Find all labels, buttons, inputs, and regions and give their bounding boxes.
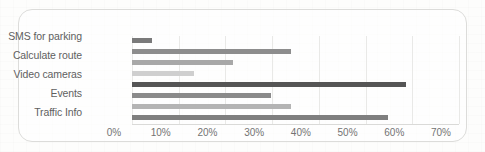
- bar: [132, 93, 271, 98]
- value-axis-line: [132, 124, 459, 125]
- category-label-calculate-route: Calculate route: [13, 49, 82, 61]
- gridline-50: [366, 36, 367, 124]
- bar: [132, 38, 152, 43]
- bar: [132, 49, 291, 54]
- tick-label-20: 20%: [197, 127, 217, 138]
- bar: [132, 82, 406, 87]
- plot-area: [132, 36, 459, 124]
- tick-label-0: 0%: [107, 127, 121, 138]
- tick-label-60: 60%: [384, 127, 404, 138]
- category-label-traffic-info: Traffic Info: [34, 106, 82, 118]
- tick-label-30: 30%: [244, 127, 264, 138]
- category-label-events: Events: [51, 87, 83, 99]
- category-label-video-cameras: Video cameras: [13, 68, 82, 80]
- category-label-sms-for-parking: SMS for parking: [8, 30, 82, 42]
- gridline-40: [319, 36, 320, 124]
- tick-label-50: 50%: [338, 127, 358, 138]
- chart-container: SMS for parkingCalculate routeVideo came…: [18, 9, 467, 142]
- gridline-60: [412, 36, 413, 124]
- gridline-70: [459, 36, 460, 124]
- tick-label-70: 70%: [431, 127, 451, 138]
- bar: [132, 115, 388, 120]
- tick-label-40: 40%: [291, 127, 311, 138]
- bar: [132, 60, 233, 65]
- bar: [132, 104, 291, 109]
- tick-label-10: 10%: [151, 127, 171, 138]
- chart-plot-wrapper: SMS for parkingCalculate routeVideo came…: [19, 10, 466, 141]
- bar: [132, 71, 194, 76]
